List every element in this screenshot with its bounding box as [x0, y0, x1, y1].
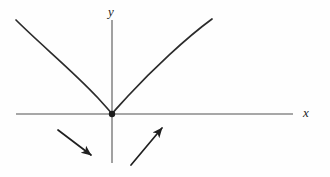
right-arrow: [131, 128, 162, 165]
x-axis-label: x: [302, 105, 309, 120]
figure-root: x y: [0, 0, 330, 177]
curve-left-branch: [16, 20, 112, 114]
y-axis-label: y: [106, 4, 114, 19]
math-figure-canvas: x y: [0, 0, 330, 177]
cusp-point-marker: [109, 111, 115, 117]
left-arrow: [58, 130, 91, 155]
curve-right-branch: [112, 19, 212, 114]
